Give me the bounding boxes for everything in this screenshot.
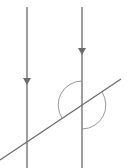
- right-arrow-icon: [78, 48, 86, 55]
- left-arrow-icon: [23, 78, 31, 85]
- parallel-lines-transversal-diagram: [0, 0, 127, 168]
- transversal-line: [0, 79, 121, 160]
